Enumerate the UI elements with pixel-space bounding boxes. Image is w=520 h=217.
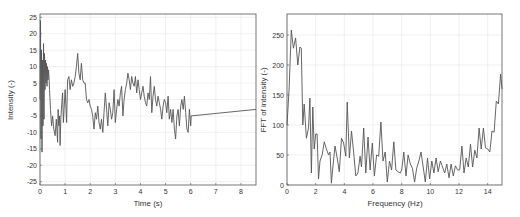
y-tick-label: 0 [280, 182, 284, 189]
y-tick-label: 250 [272, 32, 284, 39]
x-tick-label: 3 [113, 188, 117, 195]
x-tick-label: 2 [314, 188, 318, 195]
x-tick-label: 0 [38, 188, 42, 195]
y-tick-label: -20 [27, 162, 37, 169]
y-tick-label: 0 [33, 96, 37, 103]
y-tick-label: 50 [276, 152, 284, 159]
y-tick-label: 150 [272, 92, 284, 99]
y-tick-label: 5 [33, 80, 37, 87]
y-tick-label: -10 [27, 129, 37, 136]
x-tick-label: 6 [371, 188, 375, 195]
y-tick-label: 25 [29, 14, 37, 21]
x-tick-label: 10 [426, 188, 434, 195]
x-tick-label: 8 [400, 188, 404, 195]
y-tick-label: -15 [27, 145, 37, 152]
x-axis-label-left: Time (s) [133, 199, 162, 208]
y-tick-label: 100 [272, 122, 284, 129]
y-tick-label: -5 [31, 112, 37, 119]
x-tick-label: 5 [164, 188, 168, 195]
x-tick-label: 6 [189, 188, 193, 195]
y-tick-label: 10 [29, 63, 37, 70]
fft-plot: 02468101214050100150200250 Frequency (Hz… [259, 14, 502, 208]
y-tick-label: 20 [29, 30, 37, 37]
x-axis-label-right: Frequency (Hz) [367, 199, 422, 208]
y-tick-label: 200 [272, 62, 284, 69]
chart-figure: 012345678-25-20-15-10-50510152025 Time (… [0, 0, 520, 217]
x-tick-label: 0 [285, 188, 289, 195]
plot-area-right [287, 14, 502, 185]
x-tick-label: 4 [139, 188, 143, 195]
x-tick-label: 1 [63, 188, 67, 195]
x-tick-label: 12 [455, 188, 463, 195]
y-tick-label: -25 [27, 178, 37, 185]
x-tick-label: 8 [239, 188, 243, 195]
y-axis-label-right: FFT of intensity (-) [259, 67, 268, 133]
time-series-plot: 012345678-25-20-15-10-50510152025 Time (… [6, 14, 256, 208]
y-tick-label: 15 [29, 47, 37, 54]
x-tick-label: 14 [484, 188, 492, 195]
x-tick-label: 2 [88, 188, 92, 195]
x-tick-label: 4 [342, 188, 346, 195]
y-axis-label-left: Intensity (-) [6, 80, 15, 120]
x-tick-label: 7 [214, 188, 218, 195]
